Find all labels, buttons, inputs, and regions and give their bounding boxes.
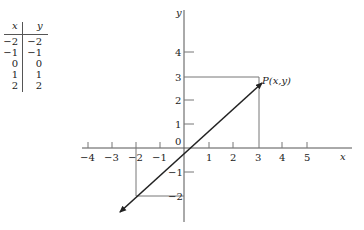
- x-tick-label: 4: [279, 152, 285, 163]
- x-tick-label: −2: [128, 152, 143, 163]
- x-tick-label: −3: [104, 152, 119, 163]
- y-tick-label: 3: [175, 72, 181, 83]
- x-tick-label: 3: [255, 152, 261, 163]
- x-tick-label: 1: [206, 152, 212, 163]
- x-tick-label: 5: [304, 152, 310, 163]
- x-ticks: [88, 142, 307, 148]
- point-p-label: P(x,y): [261, 75, 291, 86]
- y-tick-label: −1: [168, 167, 183, 178]
- x-tick-label: −4: [80, 152, 95, 163]
- coordinate-graph: y x 0 −4 −3 −2 −1 1 2 3 4 5 4 3 2 1 −1 −…: [0, 0, 364, 230]
- x-axis-label: x: [340, 151, 346, 162]
- y-tick-label: 4: [175, 47, 181, 58]
- y-tick-label: −2: [168, 191, 183, 202]
- y-tick-label: 2: [175, 95, 181, 106]
- origin-label: 0: [175, 136, 181, 147]
- y-ticks: [184, 52, 194, 172]
- x-tick-label: −1: [152, 152, 167, 163]
- y-axis-label: y: [175, 7, 182, 18]
- y-tick-label: 1: [175, 119, 181, 130]
- x-tick-label: 2: [230, 152, 236, 163]
